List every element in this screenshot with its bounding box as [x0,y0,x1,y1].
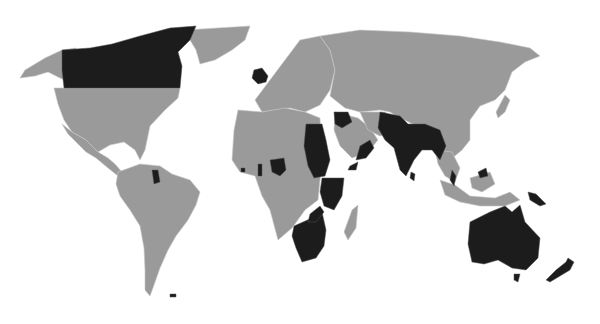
sierra-leone [241,168,245,172]
malaysia-borneo [478,168,488,178]
south-america [116,164,200,296]
falkland-islands [170,294,176,297]
ghana [258,164,262,176]
east-africa [320,178,344,210]
japan [496,95,510,118]
sri-lanka [410,172,415,181]
papua-new-guinea [528,192,546,206]
tasmania [514,274,520,282]
greenland [185,26,250,64]
new-zealand [546,258,574,282]
united-kingdom [252,68,268,84]
somaliland [348,162,358,170]
madagascar [344,205,358,240]
usa [54,88,180,160]
australia [468,205,540,270]
europe [255,36,335,112]
world-map [0,0,600,324]
canada [62,26,196,88]
